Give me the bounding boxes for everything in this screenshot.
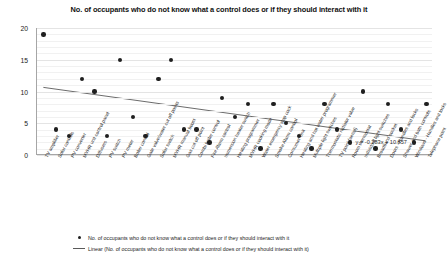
gridline-minor	[37, 66, 432, 67]
gridline	[37, 28, 432, 29]
data-point	[131, 115, 135, 119]
data-point	[92, 89, 96, 93]
data-point	[361, 89, 365, 93]
y-tick-label: 10	[20, 88, 28, 95]
gridline-minor	[37, 85, 432, 86]
gridline-minor	[37, 47, 432, 48]
data-point	[309, 146, 313, 150]
y-tick-label: 20	[20, 25, 28, 32]
data-point	[258, 146, 262, 150]
gridline-minor	[37, 72, 432, 73]
y-tick-label: 0	[24, 152, 28, 159]
y-tick-label: 5	[24, 120, 28, 127]
gridline-minor	[37, 111, 432, 112]
data-point	[373, 146, 377, 150]
gridline	[37, 123, 432, 124]
gridline-minor	[37, 41, 432, 42]
data-point	[80, 77, 84, 81]
gridline-minor	[37, 53, 432, 54]
gridline-minor	[37, 98, 432, 99]
gridline	[37, 60, 432, 61]
data-point	[41, 32, 45, 36]
data-point	[156, 77, 160, 81]
chart-title: No. of occupants who do not know what a …	[0, 5, 438, 14]
gridline-minor	[37, 34, 432, 35]
y-axis-labels: 05101520	[0, 28, 32, 155]
legend-item-label: Linear (No. of occupants who do not know…	[86, 246, 309, 252]
legend-item-label: No. of occupants who do not know what a …	[86, 235, 289, 241]
legend-item[interactable]: Linear (No. of occupants who do not know…	[72, 243, 432, 254]
x-axis-labels: TV amplifierSolar controlsPV converterMV…	[36, 156, 432, 218]
chart-legend: No. of occupants who do not know what a …	[72, 232, 432, 254]
legend-item[interactable]: No. of occupants who do not know what a …	[72, 232, 432, 243]
gridline-minor	[37, 79, 432, 80]
legend-dot-icon	[72, 236, 86, 239]
y-tick-label: 15	[20, 56, 28, 63]
gridline-minor	[37, 104, 432, 105]
legend-line-icon	[72, 248, 86, 249]
data-point	[271, 102, 275, 106]
